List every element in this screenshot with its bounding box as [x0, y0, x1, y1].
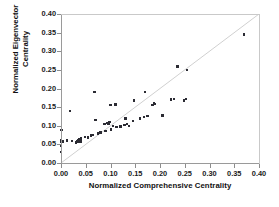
data-point: [92, 134, 94, 136]
data-point: [243, 33, 245, 35]
x-axis-tick-label: 0.05: [73, 170, 99, 178]
data-point: [79, 140, 81, 142]
data-point: [146, 115, 148, 117]
data-point: [144, 91, 146, 93]
y-axis-tick: [57, 126, 61, 127]
x-axis-tick: [61, 164, 62, 168]
data-point: [173, 98, 175, 100]
x-axis-tick-label: 0.30: [197, 170, 223, 178]
data-point: [133, 99, 135, 101]
data-point: [93, 91, 95, 93]
data-point: [99, 131, 101, 133]
data-point: [143, 116, 145, 118]
data-point: [154, 103, 156, 105]
plot-frame-top: [61, 14, 260, 15]
x-axis-tick: [160, 164, 161, 168]
y-axis-tick: [57, 107, 61, 108]
data-point: [80, 137, 82, 139]
y-axis-tick: [57, 70, 61, 71]
data-point: [176, 65, 178, 67]
x-axis-tick-label: 0.00: [48, 170, 74, 178]
x-axis-tick: [210, 164, 211, 168]
data-point: [161, 114, 163, 116]
x-axis-tick: [234, 164, 235, 168]
data-point: [107, 123, 109, 125]
y-axis-title-line2: Centrality: [21, 0, 31, 114]
y-axis-tick-label: 0.00: [30, 159, 56, 167]
y-axis-tick: [57, 14, 61, 15]
y-axis-tick-label: 0.20: [30, 85, 56, 93]
x-axis-tick-label: 0.20: [147, 170, 173, 178]
data-point: [69, 110, 71, 112]
data-point: [139, 117, 141, 119]
y-axis-tick: [57, 89, 61, 90]
plot-area: [61, 14, 259, 163]
x-axis-tick-label: 0.35: [221, 170, 247, 178]
plot-frame-right: [259, 14, 260, 164]
data-point: [71, 140, 73, 142]
y-axis-tick-label: 0.35: [30, 29, 56, 37]
data-point: [110, 128, 112, 130]
x-axis-tick: [86, 164, 87, 168]
y-axis-tick-label: 0.25: [30, 66, 56, 74]
x-axis-tick-label: 0.25: [172, 170, 198, 178]
data-point: [94, 119, 96, 121]
data-point: [109, 104, 111, 106]
x-axis-tick: [259, 164, 260, 168]
x-axis-tick: [185, 164, 186, 168]
data-point: [66, 139, 68, 141]
x-axis-tick: [111, 164, 112, 168]
x-axis-tick-label: 0.15: [122, 170, 148, 178]
y-axis-tick-label: 0.40: [30, 10, 56, 18]
x-axis-tick-label: 0.10: [98, 170, 124, 178]
y-axis-tick: [57, 51, 61, 52]
y-axis-tick-label: 0.15: [30, 103, 56, 111]
data-point: [186, 69, 188, 71]
y-axis-title-line1: Normalized Eigenvector: [11, 0, 21, 114]
data-point: [132, 120, 134, 122]
data-point: [108, 121, 110, 123]
y-axis-tick: [57, 144, 61, 145]
y-axis-tick-label: 0.30: [30, 47, 56, 55]
y-axis-tick-label: 0.10: [30, 122, 56, 130]
data-point: [128, 125, 130, 127]
identity-reference-line: [61, 14, 259, 163]
x-axis-tick-label: 0.40: [246, 170, 272, 178]
y-axis-tick: [57, 33, 61, 34]
data-point: [112, 125, 114, 127]
data-point: [185, 98, 187, 100]
data-point: [115, 126, 117, 128]
y-axis-line: [61, 14, 62, 164]
x-axis-title: Normalized Comprehensive Centrality: [61, 181, 259, 190]
y-axis-tick-label: 0.05: [30, 140, 56, 148]
data-point: [104, 130, 106, 132]
scatter-chart: 0.000.050.100.150.200.250.300.350.40 0.0…: [0, 0, 279, 207]
data-point: [124, 117, 126, 119]
y-axis-title: Normalized Eigenvector Centrality: [11, 0, 31, 114]
data-point: [114, 103, 116, 105]
data-point: [84, 136, 86, 138]
x-axis-tick: [135, 164, 136, 168]
data-point: [119, 125, 121, 127]
